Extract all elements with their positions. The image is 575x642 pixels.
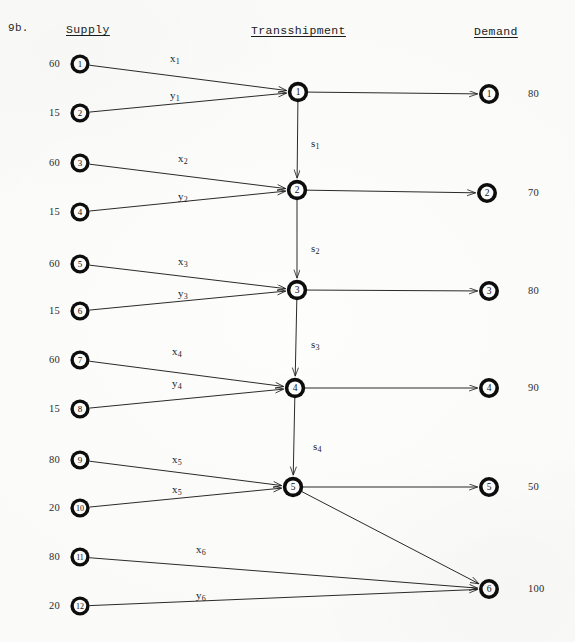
- supply-value-4: 15: [34, 206, 60, 217]
- edge-9-to-t5: [89, 461, 281, 485]
- chain-label-s2-1: s2: [311, 242, 320, 256]
- supply-value-10: 20: [34, 502, 60, 513]
- edge-label-y1-1: y1: [170, 89, 180, 103]
- edge-8-to-t4: [89, 389, 283, 408]
- supply-value-11: 80: [34, 551, 60, 562]
- supply-value-1: 60: [34, 58, 60, 69]
- demand-value-6: 100: [528, 583, 544, 594]
- supply-node-8: [70, 399, 89, 418]
- edge-t1-to-d1: [308, 92, 478, 94]
- demand-value-3: 80: [528, 285, 539, 296]
- demand-value-4: 90: [528, 382, 539, 393]
- edge-10-to-t5: [89, 488, 281, 507]
- supply-value-8: 15: [34, 403, 60, 414]
- edge-t3-to-t4: [295, 300, 297, 376]
- edge-2-to-t1: [89, 93, 286, 112]
- demand-node-5: [479, 477, 499, 497]
- edge-label-y4-7: y4: [172, 377, 182, 391]
- supply-node-10: [70, 498, 89, 517]
- edge-11-to-d6: [89, 558, 477, 588]
- demand-value-1: 80: [528, 88, 539, 99]
- edge-t4-to-t5: [293, 398, 295, 475]
- transshipment-node-4: [285, 378, 305, 398]
- edge-label-x1-0: x1: [170, 52, 180, 66]
- demand-node-4: [479, 378, 499, 398]
- edge-label-x4-6: x4: [172, 345, 182, 359]
- edge-12-to-d6: [89, 589, 477, 605]
- supply-node-12: [70, 596, 89, 615]
- supply-value-5: 60: [34, 258, 60, 269]
- edge-t5-to-d6: [302, 492, 479, 584]
- supply-node-5: [70, 254, 89, 273]
- problem-number: 9b.: [8, 22, 29, 34]
- edge-t2-to-d2: [307, 190, 476, 193]
- edge-label-x3-4: x3: [178, 255, 188, 269]
- edge-label-y3-5: y3: [178, 287, 188, 301]
- supply-value-6: 15: [34, 305, 60, 316]
- supply-node-4: [70, 202, 89, 221]
- edge-7-to-t4: [89, 361, 283, 386]
- edge-3-to-t2: [89, 164, 285, 188]
- edge-t1-to-t2: [297, 102, 298, 178]
- demand-node-1: [479, 84, 499, 104]
- edge-label-y2-3: y2: [178, 190, 188, 204]
- supply-value-3: 60: [34, 157, 60, 168]
- chain-label-s3-2: s3: [311, 338, 320, 352]
- chain-label-s4-3: s4: [313, 440, 322, 454]
- edge-label-y6-11: y6: [196, 589, 206, 603]
- transshipment-node-1: [288, 82, 308, 102]
- supply-node-3: [70, 153, 89, 172]
- supply-value-2: 15: [34, 107, 60, 118]
- edge-label-x6-10: x6: [196, 543, 206, 557]
- supply-value-7: 60: [34, 354, 60, 365]
- edge-label-x5-8: x5: [172, 453, 182, 467]
- supply-node-1: [70, 54, 89, 73]
- demand-value-2: 70: [528, 187, 539, 198]
- diagram-page: 9b. Supply Transshipment Demand 12345678…: [0, 0, 575, 642]
- header-transshipment: Transshipment: [251, 24, 346, 37]
- demand-node-6: [479, 579, 499, 599]
- edge-label-x2-2: x2: [178, 152, 188, 166]
- supply-node-2: [70, 103, 89, 122]
- header-supply: Supply: [66, 23, 110, 36]
- demand-node-3: [479, 281, 499, 301]
- supply-node-9: [70, 450, 89, 469]
- transshipment-node-5: [283, 477, 303, 497]
- supply-node-6: [70, 301, 89, 320]
- edge-label-x5-9: x5: [172, 483, 182, 497]
- demand-value-5: 50: [528, 481, 539, 492]
- edge-1-to-t1: [89, 65, 286, 90]
- transshipment-node-2: [287, 180, 307, 200]
- transshipment-node-3: [287, 280, 307, 300]
- supply-node-11: [70, 547, 89, 566]
- header-demand: Demand: [474, 25, 518, 38]
- supply-node-7: [70, 350, 89, 369]
- edge-t3-to-d3: [307, 290, 478, 291]
- supply-value-12: 20: [34, 600, 60, 611]
- chain-label-s1-0: s1: [311, 137, 320, 151]
- supply-value-9: 80: [34, 454, 60, 465]
- network-graphic: [0, 0, 575, 642]
- demand-node-2: [477, 183, 497, 203]
